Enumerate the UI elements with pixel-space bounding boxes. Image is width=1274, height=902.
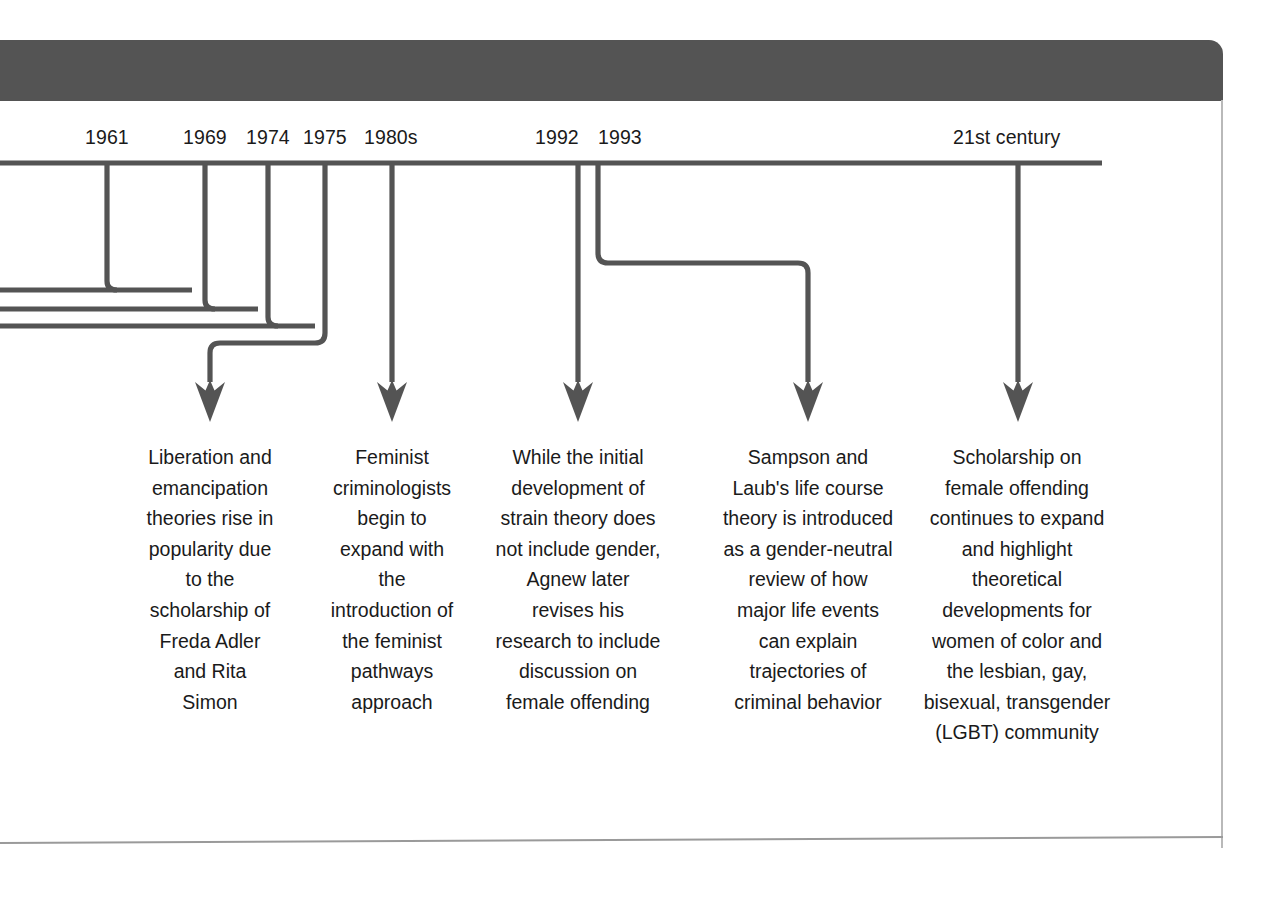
entry-text-1993: Sampson and Laub's life course theory is… — [722, 442, 894, 717]
entry-text-1980s: Feminist criminologists begin to expand … — [327, 442, 457, 717]
arrowhead-4 — [793, 380, 823, 422]
branch-1969 — [205, 163, 258, 309]
entry-text-1961-1975: Liberation and emancipation theories ris… — [146, 442, 274, 717]
branch-1961 — [107, 163, 192, 290]
arrowhead-3 — [563, 380, 593, 422]
branch-1974 — [268, 163, 315, 326]
arrowhead-2 — [377, 380, 407, 422]
entry-text-1992: While the initial development of strain … — [494, 442, 662, 717]
arrowhead-1 — [195, 380, 225, 422]
branch-1993 — [598, 163, 808, 382]
timeline-page: 1961 1969 1974 1975 1980s 1992 1993 21st… — [0, 0, 1274, 902]
arrowhead-5 — [1003, 380, 1033, 422]
entry-text-21st-century: Scholarship on female offending continue… — [921, 442, 1113, 748]
